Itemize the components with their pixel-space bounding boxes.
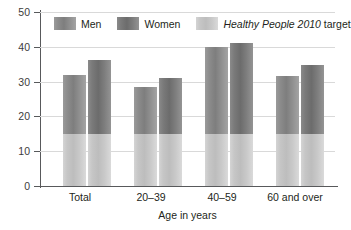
legend-label-target-rest: target (324, 18, 351, 30)
bar-segment-target (134, 134, 157, 186)
x-axis-category-60-and-over: 60 and over (254, 191, 336, 203)
y-axis-label-30: 30 (0, 77, 30, 87)
bar-segment-target (88, 134, 111, 186)
bar-segment-women (301, 65, 324, 134)
gridline-40 (40, 47, 335, 48)
legend-swatch-men-icon (54, 17, 76, 30)
y-axis-label-20: 20 (0, 111, 30, 121)
bar-40-59-men (205, 47, 228, 186)
x-axis-title: Age in years (40, 209, 335, 221)
bar-segment-women (88, 60, 111, 134)
bar-segment-target (230, 134, 253, 186)
bar-segment-target (63, 134, 86, 186)
bar-segment-target (205, 134, 228, 186)
bar-segment-men (134, 87, 157, 134)
bar-40-59-women (230, 43, 253, 186)
bar-segment-men (63, 75, 86, 134)
legend-item-men: Men (54, 17, 101, 30)
gridline-50 (40, 12, 335, 13)
legend-label-men: Men (81, 18, 101, 30)
bar-total-men (63, 75, 86, 186)
bar-segment-target (301, 134, 324, 186)
bar-total-women (88, 60, 111, 186)
bar-20-39-women (159, 78, 182, 186)
bar-segment-women (230, 43, 253, 134)
bar-segment-men (276, 76, 299, 133)
y-axis-label-40: 40 (0, 42, 30, 52)
legend-swatch-target-icon (196, 17, 218, 30)
x-axis-category-total: Total (45, 191, 115, 203)
plot-area (40, 12, 335, 186)
bar-20-39-men (134, 87, 157, 186)
y-axis-label-0: 0 (0, 181, 30, 191)
legend-label-target: Healthy People 2010 target (223, 18, 350, 30)
x-axis-category-20-39: 20–39 (116, 191, 186, 203)
legend-label-target-italic: Healthy People 2010 (223, 18, 321, 30)
bar-segment-men (205, 47, 228, 134)
legend-item-target: Healthy People 2010 target (196, 17, 350, 30)
x-axis-category-40-59: 40–59 (187, 191, 257, 203)
x-axis-line (38, 186, 338, 187)
bar-segment-women (159, 78, 182, 134)
legend-swatch-women-icon (117, 17, 139, 30)
bar-segment-target (159, 134, 182, 186)
bar-segment-target (276, 134, 299, 186)
y-axis-label-10: 10 (0, 146, 30, 156)
chart-legend: Men Women Healthy People 2010 target (54, 17, 351, 30)
y-axis-label-50: 50 (0, 7, 30, 17)
legend-label-women: Women (144, 18, 180, 30)
bar-60-and-over-men (276, 76, 299, 186)
legend-item-women: Women (117, 17, 180, 30)
bar-60-and-over-women (301, 65, 324, 186)
